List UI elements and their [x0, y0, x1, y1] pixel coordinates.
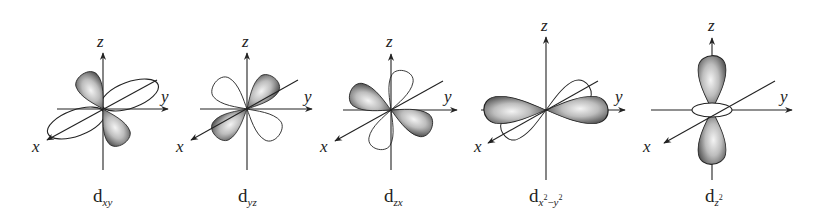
orbital-dx2-y2 — [481, 37, 625, 180]
label-subscript: zx — [394, 196, 403, 208]
label-base: d — [238, 185, 248, 206]
label-superscript: 2 — [559, 193, 563, 202]
y-axis-label: y — [444, 88, 452, 105]
label-superscript: 2 — [719, 193, 723, 202]
z-axis-label: z — [708, 17, 715, 34]
label-subscript: y — [554, 196, 559, 208]
z-axis-label: z — [97, 33, 104, 50]
x-axis-label: x — [32, 138, 40, 155]
orbital-label-dyz: dyz — [238, 186, 257, 205]
orbital-dyz — [191, 53, 312, 170]
y-axis-label: y — [780, 88, 788, 105]
label-base: d — [529, 185, 539, 206]
orbital-label-dzx: dzx — [384, 186, 403, 205]
orbital-label-dx2-y2: dx2−y2 — [529, 186, 563, 205]
label-minus: − — [547, 196, 553, 208]
label-base: d — [705, 185, 715, 206]
z-axis-label: z — [386, 33, 393, 50]
x-axis-label: x — [176, 138, 184, 155]
orbital-dzx — [335, 54, 457, 170]
x-axis-label: x — [320, 138, 328, 155]
x-axis — [191, 80, 298, 140]
label-base: d — [93, 185, 103, 206]
x-axis-label: x — [474, 138, 482, 155]
y-axis-label: y — [615, 88, 623, 105]
orbital-dxy — [43, 53, 168, 170]
z-axis-label: z — [242, 33, 249, 50]
orbital-label-dz2: dz2 — [705, 186, 723, 205]
orbital-dz2 — [651, 38, 792, 180]
label-subscript: yz — [248, 196, 257, 208]
label-base: d — [384, 185, 394, 206]
y-axis-label: y — [304, 88, 312, 105]
x-axis-label: x — [643, 138, 651, 155]
z-axis-label: z — [541, 17, 548, 34]
d-orbitals-diagram — [0, 0, 822, 219]
label-subscript: xy — [103, 196, 113, 208]
orbital-label-dxy: dxy — [93, 186, 112, 205]
y-axis-label: y — [161, 88, 169, 105]
torus-ring — [692, 103, 732, 117]
